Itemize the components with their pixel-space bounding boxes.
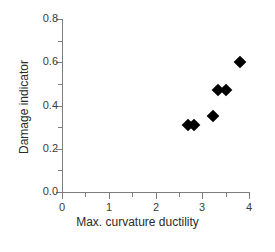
x-axis-title: Max. curvature ductility	[0, 215, 275, 229]
x-tick-major	[156, 193, 157, 199]
y-tick-label: 0.6	[43, 56, 58, 67]
x-tick-major	[202, 193, 203, 199]
y-axis-line	[62, 19, 63, 193]
x-tick-label: 0	[47, 202, 77, 213]
x-tick-minor	[179, 193, 180, 197]
x-tick-major	[109, 193, 110, 199]
x-tick-major	[62, 193, 63, 199]
x-tick-label: 2	[141, 202, 171, 213]
y-tick-minor	[58, 41, 62, 42]
y-tick-minor	[58, 84, 62, 85]
y-tick-label: 0.2	[43, 143, 58, 154]
y-tick-minor	[58, 127, 62, 128]
x-tick-major	[249, 193, 250, 199]
y-tick-label: 0.0	[43, 186, 58, 197]
y-tick-minor	[58, 170, 62, 171]
x-tick-minor	[85, 193, 86, 197]
data-point-marker	[233, 56, 246, 69]
x-tick-label: 3	[187, 202, 217, 213]
y-tick-label: 0.8	[43, 13, 58, 24]
x-tick-label: 1	[94, 202, 124, 213]
y-tick-label: 0.4	[43, 100, 58, 111]
data-point-marker	[207, 110, 220, 123]
chart-figure: 0.00.20.40.60.801234 Max. curvature duct…	[0, 0, 275, 252]
caption-fragment	[0, 246, 275, 252]
x-tick-minor	[226, 193, 227, 197]
y-axis-title: Damage indicator	[17, 37, 31, 177]
x-tick-minor	[132, 193, 133, 197]
x-tick-label: 4	[234, 202, 264, 213]
